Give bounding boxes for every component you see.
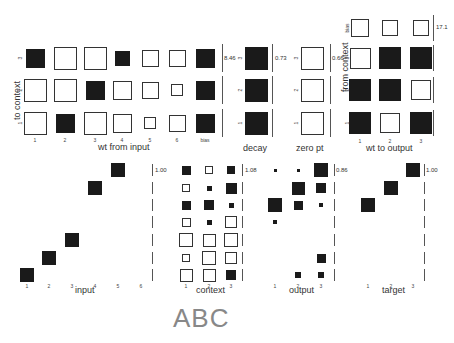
hinton-cell [20, 268, 34, 282]
scale-bar [152, 216, 153, 228]
scale-bar [242, 234, 243, 246]
scale-bar [330, 44, 331, 72]
scale-bar [242, 164, 243, 176]
scale-bar [424, 252, 425, 264]
scale-bar [222, 76, 223, 104]
hinton-cell [203, 269, 216, 282]
scale-bar [242, 216, 243, 228]
x-axis-label-decay: decay [243, 143, 267, 153]
hinton-cell [301, 112, 324, 135]
scale-bar [334, 216, 335, 228]
row-label: 3 [293, 57, 299, 60]
hinton-cell [384, 181, 398, 195]
scale-bar [433, 110, 434, 136]
column-label: 3 [412, 283, 415, 289]
hinton-cell [54, 79, 77, 102]
hinton-cell [113, 81, 132, 100]
row-label: 2 [293, 89, 299, 92]
hinton-cell [301, 79, 324, 102]
hinton-cell [380, 113, 400, 133]
hinton-cell [379, 47, 401, 69]
scale-bar [272, 109, 273, 137]
hinton-cell [203, 234, 216, 247]
hinton-cell [297, 169, 300, 172]
x-axis-label-target: target [382, 285, 405, 295]
column-label: 2 [208, 283, 211, 289]
scale-value: 0.86 [336, 167, 348, 173]
hinton-cell [202, 251, 216, 265]
hinton-cell [229, 203, 234, 208]
scale-bar [424, 199, 425, 211]
hinton-cell [411, 80, 431, 100]
hinton-cell [349, 79, 371, 101]
hinton-cell [182, 201, 191, 210]
column-label: 4 [121, 137, 124, 143]
column-label: 3 [94, 137, 97, 143]
hinton-cell [207, 220, 212, 225]
hinton-cell [227, 166, 235, 174]
hinton-cell [268, 198, 282, 212]
scale-bar [334, 269, 335, 281]
row-label: 1 [344, 122, 350, 125]
column-label: 5 [149, 137, 152, 143]
hinton-cell [245, 47, 268, 70]
row-label: 2 [237, 89, 243, 92]
scale-bar [272, 44, 273, 72]
hinton-cell [301, 47, 324, 70]
column-label: 5 [117, 283, 120, 289]
row-label: 1 [237, 122, 243, 125]
hinton-cell [111, 163, 125, 177]
column-label: 1 [26, 283, 29, 289]
hinton-cell [169, 115, 186, 132]
hinton-cell [26, 49, 45, 68]
hinton-cell [351, 19, 369, 37]
hinton-cell [88, 181, 102, 195]
hinton-cell [182, 254, 190, 262]
hinton-cell [54, 47, 77, 70]
scale-bar [330, 76, 331, 104]
hinton-cell [350, 48, 371, 69]
scale-bar [334, 252, 335, 264]
hinton-diagram-figure: to context wt from input 8.46 321123456b… [0, 0, 454, 343]
hinton-cell [225, 216, 237, 228]
row-label: 2 [17, 89, 23, 92]
scale-bar [334, 182, 335, 194]
hinton-cell [182, 218, 191, 227]
hinton-cell [86, 81, 105, 100]
hinton-cell [169, 50, 186, 67]
row-label: 3 [237, 57, 243, 60]
row-label: 1 [293, 122, 299, 125]
scale-bar [334, 199, 335, 211]
hinton-cell [113, 114, 132, 133]
scale-bar [334, 234, 335, 246]
hinton-cell [142, 82, 159, 99]
hinton-cell [410, 47, 432, 69]
scale-value: 0.73 [275, 55, 287, 61]
column-label: 3 [420, 138, 423, 144]
hinton-cell [142, 50, 159, 67]
hinton-cell [319, 203, 323, 207]
hinton-cell [379, 79, 401, 101]
hinton-cell [171, 84, 183, 96]
column-label: 3 [320, 283, 323, 289]
hinton-cell [196, 81, 215, 100]
column-label: 2 [297, 283, 300, 289]
column-label: 1 [185, 283, 188, 289]
column-label: 4 [94, 283, 97, 289]
x-axis-label-zero-pt: zero pt [296, 143, 324, 153]
row-label: 3 [17, 57, 23, 60]
x-axis-label-output: output [289, 285, 314, 295]
hinton-cell [410, 112, 432, 134]
hinton-cell [180, 269, 193, 282]
hinton-cell [226, 183, 237, 194]
column-label: 3 [230, 283, 233, 289]
hinton-cell [361, 198, 375, 212]
column-label: 1 [274, 283, 277, 289]
column-label: 2 [389, 138, 392, 144]
column-label: 6 [176, 137, 179, 143]
column-label: bias [200, 137, 209, 143]
column-label: 2 [390, 283, 393, 289]
row-label: 2 [344, 89, 350, 92]
hinton-cell [273, 220, 277, 224]
hinton-cell [65, 233, 79, 247]
